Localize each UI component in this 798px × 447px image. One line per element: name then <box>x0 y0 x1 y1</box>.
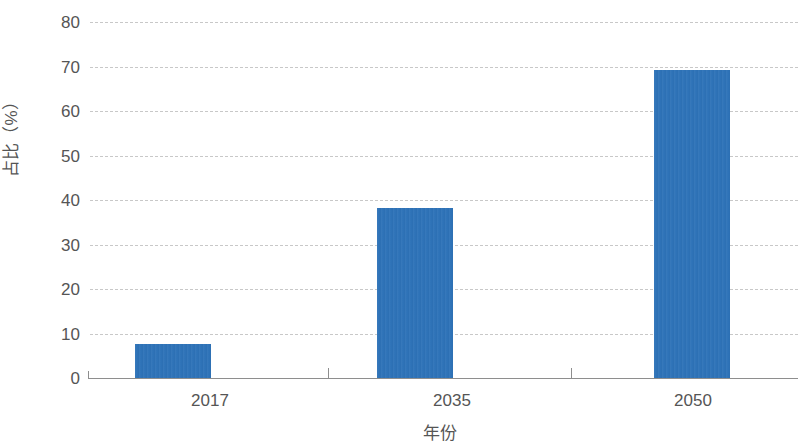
y-tick-label-50: 50 <box>20 147 80 164</box>
y-tick-label-0: 0 <box>20 370 80 387</box>
x-tick-label-2035: 2035 <box>372 392 532 409</box>
x-tick-label-2017: 2017 <box>130 392 290 409</box>
y-tick-label-60: 60 <box>20 103 80 120</box>
x-axis-title: 年份 <box>360 419 520 444</box>
bar-2050[interactable] <box>654 70 730 378</box>
bar-2017[interactable] <box>135 344 211 378</box>
x-tick-label-2050: 2050 <box>613 392 773 409</box>
y-tick-label-30: 30 <box>20 236 80 253</box>
bar-2035[interactable] <box>377 208 453 378</box>
x-axis-tick-1 <box>328 368 329 379</box>
y-tick-label-40: 40 <box>20 192 80 209</box>
gridline-70 <box>90 67 798 68</box>
bar-chart: 占比（%） 0 10 20 30 40 50 60 70 80 2017 203… <box>0 0 798 447</box>
y-tick-label-10: 10 <box>20 325 80 342</box>
plot-area <box>88 0 798 378</box>
gridline-80 <box>90 22 798 23</box>
x-axis-line <box>88 378 798 379</box>
y-tick-label-20: 20 <box>20 281 80 298</box>
y-axis-title: 占比（%） <box>0 75 24 195</box>
y-tick-label-70: 70 <box>20 58 80 75</box>
x-axis-tick-2 <box>571 368 572 379</box>
y-tick-label-80: 80 <box>20 14 80 31</box>
